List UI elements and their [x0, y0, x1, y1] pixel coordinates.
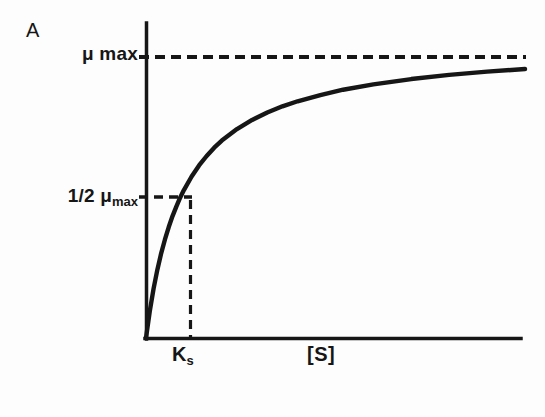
panel-letter-a: A: [26, 20, 40, 40]
x-axis-label-substrate-concentration: [S]: [307, 344, 335, 364]
x-tick-label-ks: Ks: [172, 344, 194, 364]
half-mu-max-main-text: 1/2 μ: [68, 185, 112, 206]
half-mu-max-subscript: max: [112, 194, 138, 209]
ks-main-text: K: [172, 343, 186, 365]
monod-saturation-curve: [146, 69, 525, 338]
y-tick-label-mu-max: μ max: [82, 44, 138, 63]
y-tick-label-half-mu-max: 1/2 μmax: [68, 186, 138, 205]
figure-panel-a: A μ max 1/2 μmax Ks [S]: [0, 0, 545, 417]
ks-subscript: s: [186, 353, 193, 368]
